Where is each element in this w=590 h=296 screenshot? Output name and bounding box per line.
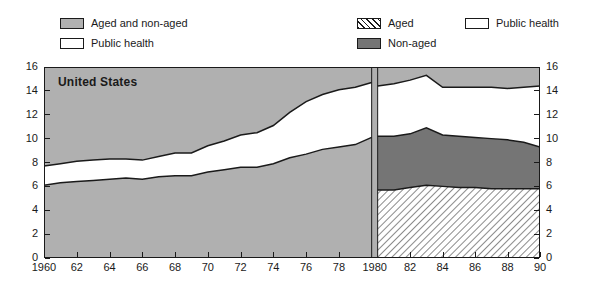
y-label-r-6: 6 bbox=[546, 180, 572, 191]
x-label-90: 90 bbox=[520, 262, 560, 273]
legend-label-public-health-right: Public health bbox=[496, 18, 559, 29]
legend-swatch-public-health-right bbox=[465, 18, 489, 29]
x-tick-64 bbox=[110, 252, 111, 257]
y-label-r-10: 10 bbox=[546, 133, 572, 144]
y-label-l-8: 8 bbox=[12, 157, 38, 168]
legend-swatch-aged-and-non-aged bbox=[60, 18, 84, 29]
y-label-r-8: 8 bbox=[546, 157, 572, 168]
x-tick-90 bbox=[540, 252, 541, 257]
x-tick-74 bbox=[273, 252, 274, 257]
legend-swatch-public-health-left bbox=[60, 38, 84, 49]
legend-label-non-aged: Non-aged bbox=[388, 38, 436, 49]
x-tick-1960 bbox=[44, 252, 45, 257]
y-tick-r-12 bbox=[534, 114, 539, 115]
legend-item-aged: Aged bbox=[357, 18, 414, 29]
y-tick-r-0 bbox=[534, 258, 539, 259]
x-label-78: 78 bbox=[319, 262, 359, 273]
y-label-r-4: 4 bbox=[546, 204, 572, 215]
y-tick-l-10 bbox=[45, 138, 50, 139]
y-tick-r-8 bbox=[534, 162, 539, 163]
panel-title: United States bbox=[58, 76, 137, 88]
y-tick-r-16 bbox=[534, 67, 539, 68]
y-tick-l-12 bbox=[45, 114, 50, 115]
x-tick-66 bbox=[142, 252, 143, 257]
y-tick-l-4 bbox=[45, 210, 50, 211]
x-tick-76 bbox=[306, 252, 307, 257]
y-tick-l-8 bbox=[45, 162, 50, 163]
x-tick-70 bbox=[208, 252, 209, 257]
y-tick-l-6 bbox=[45, 186, 50, 187]
y-tick-r-2 bbox=[534, 234, 539, 235]
y-label-l-6: 6 bbox=[12, 180, 38, 191]
legend-label-aged: Aged bbox=[388, 18, 414, 29]
axis-bottom bbox=[44, 257, 540, 258]
y-tick-r-10 bbox=[534, 138, 539, 139]
y-tick-r-6 bbox=[534, 186, 539, 187]
y-label-r-12: 12 bbox=[546, 109, 572, 120]
y-label-l-12: 12 bbox=[12, 109, 38, 120]
y-tick-r-14 bbox=[534, 90, 539, 91]
x-tick-78 bbox=[339, 252, 340, 257]
x-tick-88 bbox=[508, 252, 509, 257]
y-label-l-16: 16 bbox=[12, 61, 38, 72]
y-label-l-10: 10 bbox=[12, 133, 38, 144]
x-tick-84 bbox=[443, 252, 444, 257]
y-tick-l-2 bbox=[45, 234, 50, 235]
legend-label-aged-and-non-aged: Aged and non-aged bbox=[91, 18, 188, 29]
y-tick-l-14 bbox=[45, 90, 50, 91]
legend-swatch-non-aged bbox=[357, 38, 381, 49]
y-label-r-14: 14 bbox=[546, 85, 572, 96]
x-tick-62 bbox=[77, 252, 78, 257]
y-label-r-2: 2 bbox=[546, 228, 572, 239]
x-tick-82 bbox=[410, 252, 411, 257]
y-label-l-4: 4 bbox=[12, 204, 38, 215]
axis-right bbox=[539, 67, 540, 258]
x-tick-68 bbox=[175, 252, 176, 257]
x-tick-86 bbox=[475, 252, 476, 257]
chart-figure: Aged and non-aged Public health Aged Non… bbox=[0, 0, 590, 296]
y-label-l-2: 2 bbox=[12, 228, 38, 239]
chart-canvas bbox=[44, 67, 540, 258]
axis-top bbox=[44, 67, 540, 68]
legend-item-public-health-right: Public health bbox=[465, 18, 559, 29]
y-tick-l-0 bbox=[45, 258, 50, 259]
legend-label-public-health-left: Public health bbox=[91, 38, 154, 49]
legend-swatch-aged bbox=[357, 18, 381, 29]
x-tick-72 bbox=[241, 252, 242, 257]
plot-area: United States 00224466881010121214141616… bbox=[44, 67, 540, 258]
x-label-1980: 1980 bbox=[355, 262, 395, 273]
y-tick-r-4 bbox=[534, 210, 539, 211]
legend-item-public-health-left: Public health bbox=[60, 38, 154, 49]
legend-item-aged-and-non-aged: Aged and non-aged bbox=[60, 18, 188, 29]
y-label-r-16: 16 bbox=[546, 61, 572, 72]
y-label-l-14: 14 bbox=[12, 85, 38, 96]
legend-item-non-aged: Non-aged bbox=[357, 38, 436, 49]
y-tick-l-16 bbox=[45, 67, 50, 68]
